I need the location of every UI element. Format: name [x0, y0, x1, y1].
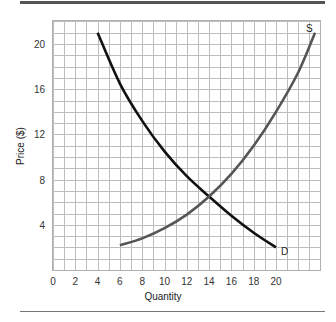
- x-tick-label: 12: [181, 276, 193, 287]
- y-tick-label: 20: [34, 39, 46, 50]
- y-tick-label: 4: [39, 220, 45, 231]
- y-tick-label: 12: [34, 129, 46, 140]
- x-axis-ticks: 02468101214161820: [50, 276, 282, 287]
- supply-demand-chart: 48121620 02468101214161820 S D Quantity …: [0, 0, 336, 322]
- demand-label: D: [281, 246, 288, 257]
- x-tick-label: 2: [73, 276, 79, 287]
- y-tick-label: 16: [34, 84, 46, 95]
- x-tick-label: 10: [159, 276, 171, 287]
- x-tick-label: 6: [117, 276, 123, 287]
- grid: [52, 20, 321, 271]
- x-tick-label: 20: [270, 276, 282, 287]
- x-tick-label: 16: [226, 276, 238, 287]
- x-tick-label: 0: [50, 276, 56, 287]
- x-tick-label: 8: [139, 276, 145, 287]
- y-tick-label: 8: [39, 175, 45, 186]
- x-tick-label: 18: [248, 276, 260, 287]
- supply-label: S: [306, 23, 313, 34]
- x-tick-label: 4: [95, 276, 101, 287]
- y-axis-label: Price ($): [15, 127, 26, 165]
- x-axis-label: Quantity: [144, 291, 181, 302]
- x-tick-label: 14: [204, 276, 216, 287]
- y-axis-ticks: 48121620: [34, 39, 46, 231]
